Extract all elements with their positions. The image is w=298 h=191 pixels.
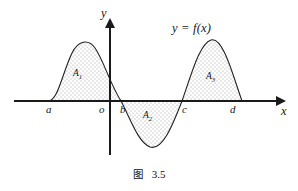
region-fill-a3 [182,40,242,101]
caption-number: 3.5 [152,168,166,180]
region-label-a1: A1 [73,69,82,81]
y-axis-label: y [101,7,107,20]
x-tick-label-b: b [120,104,126,115]
caption-word: 图 [133,168,143,180]
function-label: y = f(x) [172,22,211,35]
figure-container: y x y = f(x) o a b c d A1 A2 A3 图3.5 [0,0,298,191]
figure-caption: 图3.5 [0,166,298,181]
x-axis-label: x [281,105,287,118]
origin-label: o [99,104,105,115]
region-label-a2-sub: 2 [149,115,152,122]
x-tick-label-d: d [230,104,236,115]
x-tick-label-c: c [182,104,187,115]
region-label-a3-sub: 3 [212,76,215,83]
region-label-a1-sub: 1 [79,73,82,80]
figure-graph [0,0,298,191]
region-label-a2: A2 [143,111,152,123]
x-tick-label-a: a [46,104,52,115]
region-label-a3: A3 [206,72,215,84]
